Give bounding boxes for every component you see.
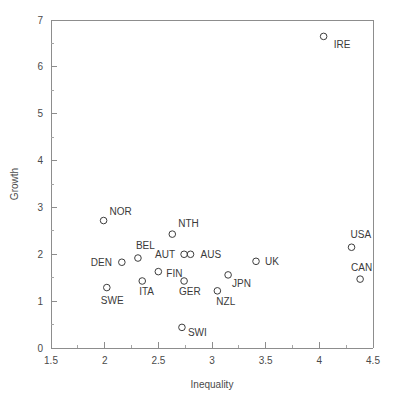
data-point[interactable]: NTH (169, 218, 199, 237)
x-tick-label: 2.5 (151, 355, 165, 366)
point-label-aus: AUS (201, 249, 222, 260)
point-marker-nth[interactable] (169, 231, 176, 238)
y-tick-label: 0 (37, 343, 43, 354)
data-point[interactable]: DEN (91, 257, 125, 268)
point-marker-aus[interactable] (187, 251, 194, 258)
x-tick-label: 4.5 (366, 355, 380, 366)
point-label-nth: NTH (178, 218, 199, 229)
y-tick-label: 1 (37, 296, 43, 307)
data-point[interactable]: NOR (100, 206, 132, 224)
y-tick-label: 3 (37, 202, 43, 213)
point-marker-bel[interactable] (135, 255, 142, 262)
point-marker-nor[interactable] (100, 217, 107, 224)
point-marker-swe[interactable] (104, 284, 111, 291)
point-label-ita: ITA (139, 286, 154, 297)
y-tick-label: 4 (37, 155, 43, 166)
x-tick-label: 3.5 (259, 355, 273, 366)
x-tick-label: 3 (209, 355, 215, 366)
point-label-bel: BEL (136, 240, 155, 251)
point-label-uk: UK (265, 256, 279, 267)
y-axis-title: Growth (9, 168, 20, 200)
x-tick-label: 2 (102, 355, 108, 366)
y-tick-label: 2 (37, 249, 43, 260)
chart-figure: 1.522.533.544.501234567InequalityGrowthI… (0, 0, 396, 404)
y-tick-label: 7 (37, 15, 43, 26)
point-marker-ire[interactable] (320, 33, 327, 40)
point-label-den: DEN (91, 257, 112, 268)
x-tick-label: 1.5 (44, 355, 58, 366)
data-point[interactable]: GER (179, 278, 201, 297)
data-point[interactable]: BEL (135, 240, 156, 261)
point-label-ger: GER (179, 286, 201, 297)
data-point[interactable]: USA (348, 229, 371, 250)
scatter-plot: 1.522.533.544.501234567InequalityGrowthI… (0, 0, 396, 404)
data-point[interactable]: FIN (155, 268, 182, 279)
point-marker-fin[interactable] (155, 268, 162, 275)
data-point[interactable]: AUS (187, 249, 221, 260)
point-label-swe: SWE (101, 295, 124, 306)
point-label-jpn: JPN (232, 278, 251, 289)
y-tick-label: 6 (37, 61, 43, 72)
point-marker-ita[interactable] (139, 278, 146, 285)
x-tick-label: 4 (317, 355, 323, 366)
data-point[interactable]: ITA (139, 278, 154, 297)
point-label-swi: SWI (188, 327, 207, 338)
point-marker-den[interactable] (119, 259, 126, 266)
point-label-usa: USA (351, 229, 372, 240)
point-label-fin: FIN (166, 268, 182, 279)
point-marker-aut[interactable] (181, 251, 188, 258)
data-point[interactable]: AUT (155, 249, 187, 260)
data-point[interactable]: JPN (225, 272, 251, 289)
x-axis-title: Inequality (191, 379, 234, 390)
point-marker-usa[interactable] (348, 244, 355, 251)
point-marker-uk[interactable] (253, 258, 260, 265)
point-marker-jpn[interactable] (225, 272, 232, 279)
data-point[interactable]: IRE (320, 33, 350, 50)
y-tick-label: 5 (37, 108, 43, 119)
point-label-aut: AUT (155, 249, 175, 260)
data-point[interactable]: SWI (179, 324, 207, 338)
point-marker-swi[interactable] (179, 324, 186, 331)
point-marker-ger[interactable] (181, 278, 188, 285)
point-label-nzl: NZL (216, 296, 235, 307)
point-label-can: CAN (351, 262, 372, 273)
data-point[interactable]: UK (253, 256, 280, 267)
point-marker-nzl[interactable] (214, 288, 221, 295)
data-point[interactable]: SWE (101, 284, 124, 305)
data-point[interactable]: CAN (351, 262, 372, 282)
data-point[interactable]: NZL (214, 288, 236, 307)
point-marker-can[interactable] (357, 276, 364, 283)
point-label-ire: IRE (334, 39, 351, 50)
point-label-nor: NOR (110, 206, 132, 217)
